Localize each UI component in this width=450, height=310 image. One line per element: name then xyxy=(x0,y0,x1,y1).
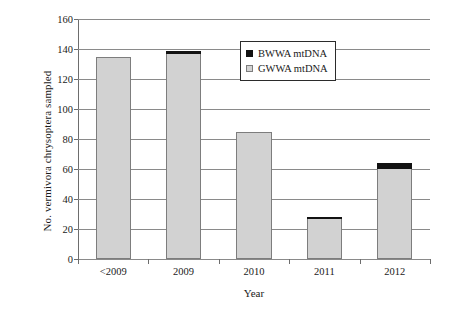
y-tick-label: 40 xyxy=(63,194,74,205)
bar-segment-gwwa[interactable] xyxy=(236,132,271,260)
bar-stack[interactable] xyxy=(166,51,201,260)
bar-stack[interactable] xyxy=(236,132,271,260)
legend-item-gwwa: GWWA mtDNA xyxy=(246,61,328,76)
gridline xyxy=(78,259,430,260)
legend-item-label: BWWA mtDNA xyxy=(258,48,327,59)
bar-chart: No. vermivora chrysoptera sampled 020406… xyxy=(0,0,450,310)
x-tick-mark xyxy=(148,259,149,264)
y-tick-label: 160 xyxy=(57,14,73,25)
x-tick-mark xyxy=(219,259,220,264)
legend-item-bwwa: BWWA mtDNA xyxy=(246,46,328,61)
y-tick-label: 20 xyxy=(63,224,74,235)
x-tick-mark xyxy=(78,259,79,264)
x-tick-mark xyxy=(360,259,361,264)
x-tick-mark xyxy=(289,259,290,264)
x-axis-title: Year xyxy=(78,287,430,299)
x-tick-label: 2012 xyxy=(384,266,405,277)
x-tick-mark xyxy=(430,259,431,264)
bar-group[interactable] xyxy=(78,19,148,259)
bar-stack[interactable] xyxy=(96,57,131,260)
bar-stack[interactable] xyxy=(307,217,342,260)
y-tick-label: 80 xyxy=(63,134,74,145)
bar-group[interactable] xyxy=(148,19,218,259)
chart-legend: BWWA mtDNA GWWA mtDNA xyxy=(240,41,336,81)
x-tick-label: 2010 xyxy=(244,266,265,277)
y-tick-label: 60 xyxy=(63,164,74,175)
y-axis-title: No. vermivora chrysoptera sampled xyxy=(41,26,53,276)
legend-item-label: GWWA mtDNA xyxy=(258,63,328,74)
bar-stack[interactable] xyxy=(377,163,412,259)
bar-group[interactable] xyxy=(360,19,430,259)
bar-segment-gwwa[interactable] xyxy=(377,169,412,259)
x-tick-label: 2011 xyxy=(314,266,335,277)
x-tick-label: <2009 xyxy=(100,266,127,277)
y-tick-label: 120 xyxy=(57,74,73,85)
bar-segment-gwwa[interactable] xyxy=(166,54,201,260)
y-tick-label: 0 xyxy=(68,254,73,265)
y-tick-label: 140 xyxy=(57,44,73,55)
y-tick-label: 100 xyxy=(57,104,73,115)
x-tick-label: 2009 xyxy=(173,266,194,277)
gray-square-icon xyxy=(246,65,253,72)
bar-segment-gwwa[interactable] xyxy=(307,219,342,260)
black-square-icon xyxy=(246,50,253,57)
bar-segment-gwwa[interactable] xyxy=(96,57,131,260)
